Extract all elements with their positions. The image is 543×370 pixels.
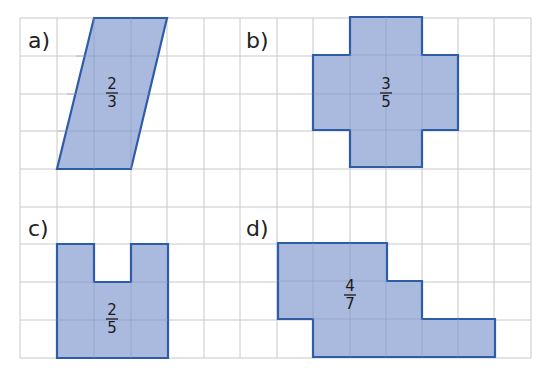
fraction-numerator: 4 <box>345 277 355 295</box>
fraction-numerator: 2 <box>107 301 117 319</box>
fraction-denominator: 3 <box>107 93 117 111</box>
fraction-denominator: 5 <box>107 319 117 337</box>
fraction-numerator: 3 <box>381 75 391 93</box>
fraction-numerator: 2 <box>107 75 117 93</box>
label-d: d) <box>246 216 269 241</box>
figure-d: 4 7 <box>278 243 495 357</box>
figure-c: 2 5 <box>57 244 168 358</box>
figure-b: 3 5 <box>313 17 458 167</box>
label-c: c) <box>28 216 49 241</box>
fraction-denominator: 7 <box>345 295 355 313</box>
fraction-shapes-diagram: 2 3 a) 3 5 b) 2 5 c) <box>0 0 543 370</box>
label-b: b) <box>246 28 269 53</box>
stepped-shape <box>278 243 495 357</box>
label-a: a) <box>28 28 50 53</box>
fraction-denominator: 5 <box>381 93 391 111</box>
